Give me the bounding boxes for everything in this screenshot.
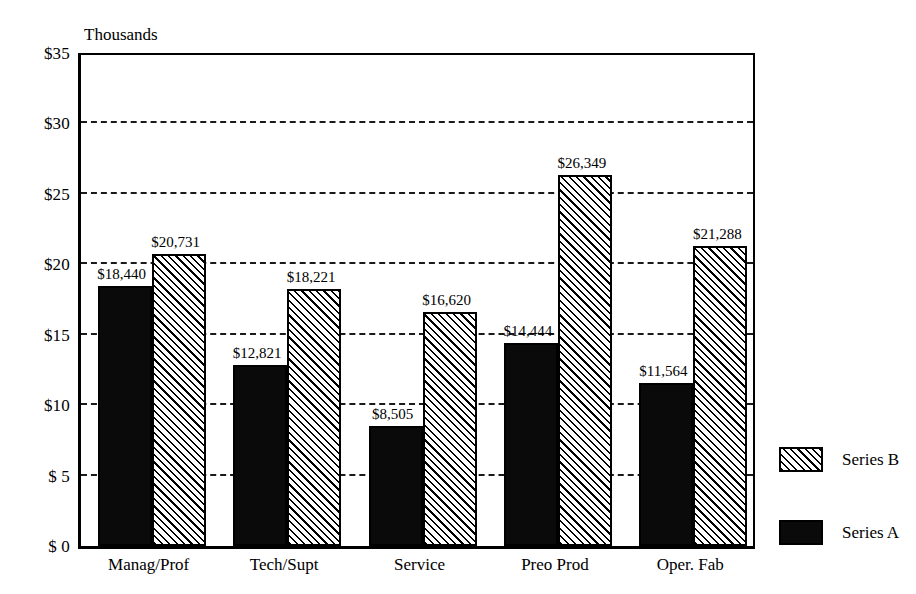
y-tick-label-15000: $15 xyxy=(8,327,70,344)
bar-series-b-tech-supt[interactable] xyxy=(287,289,341,546)
data-label-series-b-tech-supt: $18,221 xyxy=(287,270,336,285)
bar-series-b-oper-fab[interactable] xyxy=(693,246,747,546)
y-tick-label-25000: $25 xyxy=(8,186,70,203)
y-tick-label-35000: $35 xyxy=(8,45,70,62)
x-tick-label-oper-fab: Oper. Fab xyxy=(657,556,724,574)
legend-swatch-series-b xyxy=(779,447,823,472)
y-axis: $35 $30 $25 $20 $15 $10 $ 5 $ 0 xyxy=(0,0,70,594)
data-label-series-a-oper-fab: $11,564 xyxy=(639,364,687,379)
y-tick-label-30000: $30 xyxy=(8,115,70,132)
gridline-25000 xyxy=(81,192,753,194)
x-tick-label-manag-prof: Manag/Prof xyxy=(108,556,189,574)
legend-swatch-series-a xyxy=(779,520,823,545)
data-label-series-a-service: $8,505 xyxy=(372,407,413,422)
legend-label-series-a: Series A xyxy=(842,524,899,542)
data-label-series-b-preo-prod: $26,349 xyxy=(558,156,607,171)
data-label-series-a-tech-supt: $12,821 xyxy=(233,346,282,361)
bar-series-b-preo-prod[interactable] xyxy=(558,175,612,546)
y-tick-label-5000: $ 5 xyxy=(8,468,70,485)
x-tick-label-preo-prod: Preo Prod xyxy=(521,556,589,574)
bar-series-a-tech-supt[interactable] xyxy=(233,365,287,546)
y-tick-label-0: $ 0 xyxy=(8,538,70,555)
y-tick-label-10000: $10 xyxy=(8,397,70,414)
bar-chart: Thousands $35 $30 $25 $20 $15 $10 $ 5 $ … xyxy=(0,0,916,594)
data-label-series-b-manag-prof: $20,731 xyxy=(151,235,200,250)
x-tick-label-service: Service xyxy=(394,556,445,574)
data-label-series-b-oper-fab: $21,288 xyxy=(693,227,742,242)
data-label-series-b-service: $16,620 xyxy=(422,293,471,308)
y-tick-label-20000: $20 xyxy=(8,256,70,273)
bar-series-a-preo-prod[interactable] xyxy=(504,343,558,546)
data-label-series-a-manag-prof: $18,440 xyxy=(97,267,146,282)
legend-label-series-b: Series B xyxy=(842,451,899,469)
bar-series-a-oper-fab[interactable] xyxy=(639,383,693,546)
bar-series-b-manag-prof[interactable] xyxy=(152,254,206,546)
gridline-30000 xyxy=(81,121,753,123)
x-tick-label-tech-supt: Tech/Supt xyxy=(250,556,319,574)
plot-area xyxy=(78,53,755,549)
bar-series-b-service[interactable] xyxy=(423,312,477,546)
bar-series-a-manag-prof[interactable] xyxy=(98,286,152,546)
legend-item-series-b[interactable]: Series B xyxy=(779,447,899,472)
data-label-series-a-preo-prod: $14,444 xyxy=(504,324,553,339)
bar-series-a-service[interactable] xyxy=(369,426,423,546)
legend-item-series-a[interactable]: Series A xyxy=(779,520,899,545)
unit-caption: Thousands xyxy=(84,26,158,44)
